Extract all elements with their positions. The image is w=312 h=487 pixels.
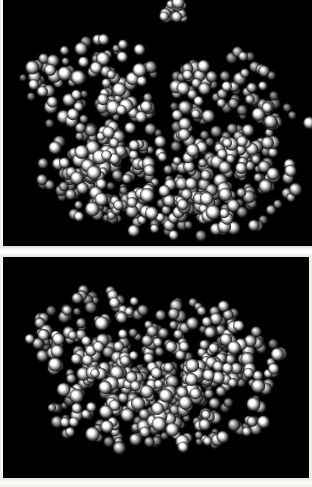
molecule-render-top bbox=[3, 0, 312, 246]
right-margin-band bbox=[309, 257, 312, 487]
panel-top-canvas-wrap bbox=[3, 0, 312, 246]
panel-separator-band bbox=[0, 246, 312, 257]
bottom-margin-band bbox=[0, 478, 312, 487]
figure-root bbox=[0, 0, 312, 487]
molecule-render-bottom bbox=[3, 257, 309, 478]
panel-bottom bbox=[3, 257, 309, 478]
panel-top bbox=[3, 0, 312, 246]
panel-bottom-canvas-wrap bbox=[3, 257, 309, 478]
